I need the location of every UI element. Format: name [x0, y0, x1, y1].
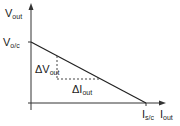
delta-v-label: ΔVout — [35, 64, 59, 78]
x-axis-label: Iout — [160, 109, 173, 123]
x-intercept-label: Is/c — [142, 109, 154, 123]
y-axis-arrow-icon — [29, 3, 34, 10]
diagram-canvas — [0, 0, 180, 126]
y-intercept-label: Vo/c — [3, 37, 20, 51]
x-axis-arrow-icon — [159, 101, 166, 106]
delta-i-label: ΔIout — [72, 84, 92, 98]
y-axis-label: Vout — [5, 8, 22, 22]
